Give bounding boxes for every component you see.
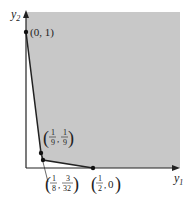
svg-text:,: , xyxy=(104,180,106,190)
svg-text:(: ( xyxy=(91,174,97,195)
svg-text:,: , xyxy=(58,180,60,190)
svg-text:1: 1 xyxy=(51,128,55,137)
point-label: ( 1 2 , 0 ) xyxy=(91,174,121,195)
vertex-point xyxy=(91,166,95,170)
svg-text:): ) xyxy=(73,174,79,195)
svg-text:(: ( xyxy=(43,128,49,149)
svg-text:9: 9 xyxy=(51,138,55,147)
svg-text:1: 1 xyxy=(52,174,56,183)
x-axis-label: y1 xyxy=(173,171,183,187)
svg-text:9: 9 xyxy=(63,138,67,147)
svg-text:(: ( xyxy=(45,174,51,195)
y-axis-label: y2 xyxy=(10,7,20,23)
svg-text:3: 3 xyxy=(66,174,70,183)
feasible-region-diagram: y2 y1 (0, 1) ( 1 9 , 1 9 ) ( 1 8 , 3 32 … xyxy=(0,0,191,203)
svg-text:1: 1 xyxy=(98,174,102,183)
point-label: (0, 1) xyxy=(30,26,54,39)
svg-text:8: 8 xyxy=(52,184,56,193)
svg-text:0: 0 xyxy=(108,178,114,190)
svg-text:2: 2 xyxy=(98,184,102,193)
svg-text:,: , xyxy=(57,134,59,144)
svg-text:1: 1 xyxy=(63,128,67,137)
vertex-point xyxy=(39,151,43,155)
point-label: ( 1 8 , 3 32 ) xyxy=(45,174,79,195)
svg-text:): ) xyxy=(115,174,121,195)
vertex-point xyxy=(24,30,28,34)
vertex-point xyxy=(41,158,45,162)
svg-text:): ) xyxy=(68,128,74,149)
svg-text:32: 32 xyxy=(63,184,71,193)
